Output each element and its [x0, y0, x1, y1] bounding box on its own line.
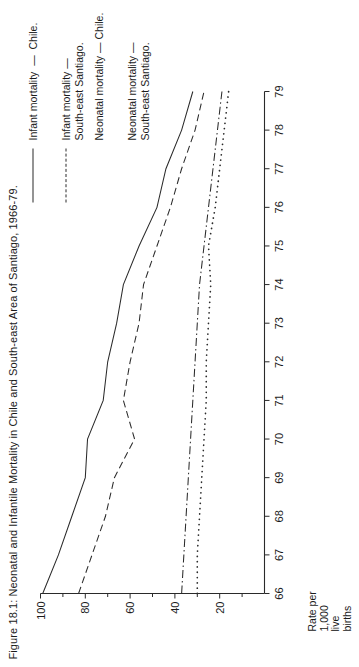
- x-tick-label: 68: [272, 510, 284, 522]
- x-tick-label: 74: [272, 278, 284, 290]
- legend-item-label: Infant mortality — Chile.: [26, 22, 39, 140]
- chart-series-line: [197, 91, 228, 593]
- y-tick-label: 80: [79, 601, 91, 613]
- y-tick-label: 100: [34, 601, 46, 619]
- x-tick-label: 72: [272, 355, 284, 367]
- figure-title: Figure 18.1: Neonatal and Infantile Mort…: [6, 185, 18, 659]
- chart-legend: Infant mortality — Chile.Infant mortalit…: [26, 6, 158, 202]
- x-tick-label: 75: [272, 239, 284, 251]
- y-tick-label: 40: [168, 601, 180, 613]
- legend-item: Neonatal mortality — South-east Santiago…: [125, 6, 151, 202]
- x-tick-label: 71: [272, 394, 284, 406]
- x-tick-label: 78: [272, 123, 284, 135]
- legend-item: Neonatal mortality — Chile.: [92, 6, 118, 202]
- y-tick-label: 60: [124, 601, 136, 613]
- legend-line-sample-dash: [65, 148, 67, 202]
- legend-item-label: Neonatal mortality — South-east Santiago…: [125, 42, 150, 140]
- legend-item: Infant mortality — Chile.: [26, 6, 52, 202]
- legend-line-sample-dot: [130, 148, 132, 202]
- x-tick-label: 79: [272, 85, 284, 97]
- x-tick-label: 70: [272, 432, 284, 444]
- x-tick-label: 69: [272, 471, 284, 483]
- legend-item: Infant mortality — South-east Santiago.: [59, 6, 85, 202]
- figure-page: Figure 18.1: Neonatal and Infantile Mort…: [0, 0, 359, 667]
- x-tick-label: 73: [272, 317, 284, 329]
- x-tick-label: 77: [272, 162, 284, 174]
- legend-item-label: Infant mortality — South-east Santiago.: [59, 42, 84, 140]
- y-axis-label: Rate per 1,000 live births: [306, 591, 352, 631]
- legend-item-label: Neonatal mortality — Chile.: [92, 12, 105, 140]
- x-tick-label: 67: [272, 548, 284, 560]
- chart-series-line: [181, 91, 221, 593]
- legend-line-sample-solid: [32, 148, 34, 202]
- y-tick-label: 20: [213, 601, 225, 613]
- x-tick-label: 66: [272, 587, 284, 599]
- legend-line-sample-dashdot: [97, 148, 99, 202]
- x-tick-label: 76: [272, 201, 284, 213]
